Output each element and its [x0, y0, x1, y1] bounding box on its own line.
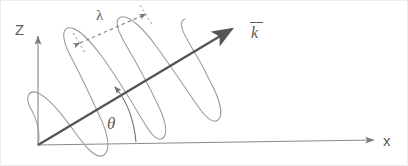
x-axis-label: x	[383, 133, 391, 148]
sinusoidal-wave	[28, 17, 221, 156]
k-vector-label: k	[249, 19, 263, 41]
theta-angle-label: θ	[107, 115, 115, 132]
wavelength-double-arrow	[80, 14, 146, 43]
k-vector-symbol: k	[249, 25, 263, 41]
k-vector-arrow	[38, 29, 232, 145]
wavelength-label: λ	[96, 8, 103, 23]
z-axis-label: Z	[15, 22, 24, 37]
diagram-canvas	[0, 0, 408, 166]
k-vector-overbar	[250, 22, 263, 23]
theta-angle-arc	[115, 87, 136, 142]
x-axis	[38, 140, 374, 145]
wave-vector-diagram: Z x θ λ k	[0, 0, 408, 166]
